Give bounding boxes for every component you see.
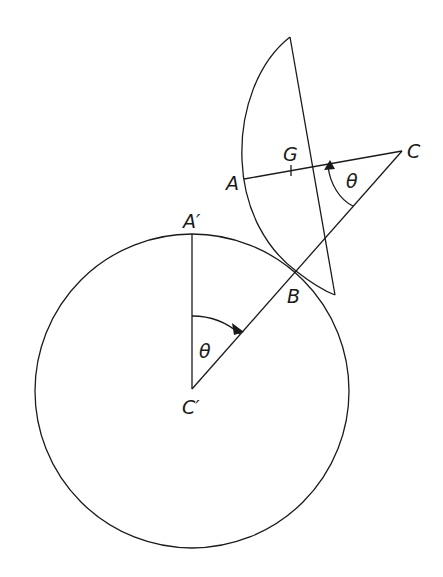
label-c: C — [407, 140, 421, 162]
label-a: A — [224, 172, 239, 194]
geometry-diagram: A G C θ A′ B θ C′ — [0, 0, 443, 577]
line-c-prime-b-c — [192, 151, 402, 389]
label-a-prime: A′ — [181, 210, 201, 232]
line-a-c — [244, 151, 402, 179]
label-theta-top: θ — [346, 170, 358, 192]
label-b: B — [287, 285, 300, 307]
diagram-canvas: A G C θ A′ B θ C′ — [0, 0, 443, 577]
arrowhead-bottom — [232, 323, 244, 335]
label-c-prime: C′ — [182, 396, 200, 418]
label-g: G — [283, 143, 298, 165]
label-theta-bottom: θ — [199, 340, 211, 362]
